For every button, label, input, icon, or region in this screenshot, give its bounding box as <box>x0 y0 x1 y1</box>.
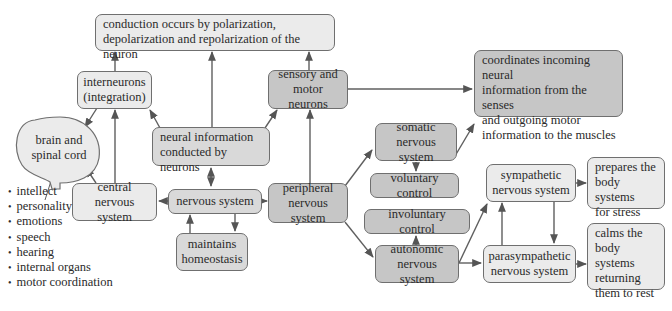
node-text: somatic <box>397 120 436 135</box>
node-text: brain and <box>24 133 94 148</box>
node-text: maintains <box>188 237 237 252</box>
conduction-node: conduction occurs by polarization, depol… <box>95 14 335 51</box>
list-item: intellect <box>8 184 113 199</box>
peripheral-nervous-system-node: peripheral nervous system <box>268 183 348 223</box>
node-text: spinal cord <box>24 148 94 163</box>
interneurons-node: interneurons (integration) <box>77 71 152 109</box>
node-text: coordinates incoming neural <box>482 53 618 83</box>
node-text: homeostasis <box>181 252 242 267</box>
node-text: autonomic <box>391 242 444 257</box>
node-text: (integration) <box>83 90 145 105</box>
somatic-nervous-system-node: somatic nervous system <box>375 123 457 161</box>
node-text: calms the <box>595 226 643 241</box>
voluntary-control-node: voluntary control <box>370 173 459 198</box>
node-text: returning <box>595 271 641 286</box>
neural-information-node: neural information conducted by neurons <box>152 127 270 166</box>
node-text: body systems <box>595 241 660 271</box>
node-text: conduction occurs by polarization, <box>103 17 276 32</box>
node-text: information to the muscles <box>482 128 616 143</box>
parasympathetic-nervous-system-node: parasympathetic nervous system <box>483 245 576 283</box>
node-text: depolarization and repolarization of the… <box>103 32 330 62</box>
node-text: for stress <box>595 205 640 220</box>
coordinates-node: coordinates incoming neural information … <box>474 50 623 117</box>
node-text: nervous system <box>492 183 569 198</box>
node-text: sympathetic <box>501 168 561 183</box>
brain-functions-list: intellect personality emotions speech he… <box>8 184 113 290</box>
node-text: nervous system <box>491 264 568 279</box>
node-text: nervous system <box>273 196 343 226</box>
list-item: emotions <box>8 214 113 229</box>
sensory-motor-neurons-node: sensory and motor neurons <box>268 70 348 109</box>
node-text: them to rest <box>595 286 654 301</box>
node-text: involuntary control <box>369 207 465 237</box>
sympathetic-nervous-system-node: sympathetic nervous system <box>486 164 576 202</box>
calms-node: calms the body systems returning them to… <box>587 223 665 290</box>
node-text: nervous system <box>176 194 253 209</box>
list-item: hearing <box>8 245 113 260</box>
node-text: body systems <box>595 175 660 205</box>
node-text: sensory and <box>278 67 337 82</box>
homeostasis-node: maintains homeostasis <box>176 233 248 271</box>
node-text: neural information <box>160 130 253 145</box>
list-item: speech <box>8 230 113 245</box>
node-text: nervous system <box>380 257 454 287</box>
list-item: personality <box>8 199 113 214</box>
node-text: prepares the <box>595 160 656 175</box>
node-text: and outgoing motor <box>482 113 581 128</box>
node-text: nervous system <box>380 135 452 165</box>
nervous-system-node: nervous system <box>168 189 262 214</box>
node-text: parasympathetic <box>489 249 571 264</box>
node-text: motor neurons <box>273 82 343 112</box>
list-item: internal organs <box>8 260 113 275</box>
prepares-node: prepares the body systems for stress <box>587 157 665 209</box>
list-item: motor coordination <box>8 275 113 290</box>
node-text: conducted by neurons <box>160 145 265 175</box>
node-text: interneurons <box>83 75 145 90</box>
involuntary-control-node: involuntary control <box>364 209 470 234</box>
node-text: information from the senses <box>482 83 618 113</box>
autonomic-nervous-system-node: autonomic nervous system <box>375 245 459 283</box>
node-text: voluntary control <box>375 171 454 201</box>
node-text: peripheral <box>283 181 334 196</box>
brain-spinal-cord-node: brain and spinal cord <box>24 133 94 163</box>
